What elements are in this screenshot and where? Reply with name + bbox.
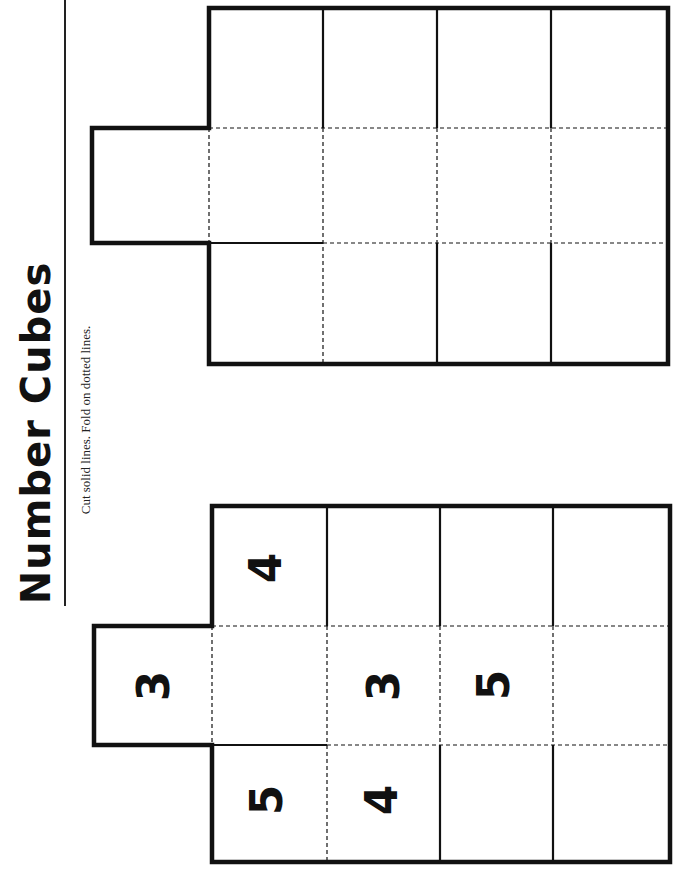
face-number-row3-col2: 4 bbox=[356, 785, 407, 816]
face-number-row1-col1: 4 bbox=[240, 553, 291, 584]
face-number-row2-col2: 3 bbox=[358, 671, 409, 702]
face-numbers: 3 4 3 5 5 4 bbox=[0, 0, 688, 896]
face-number-row2-col3: 5 bbox=[468, 670, 519, 701]
face-number-tab: 3 bbox=[128, 671, 179, 702]
face-number-row3-col1: 5 bbox=[241, 785, 292, 816]
